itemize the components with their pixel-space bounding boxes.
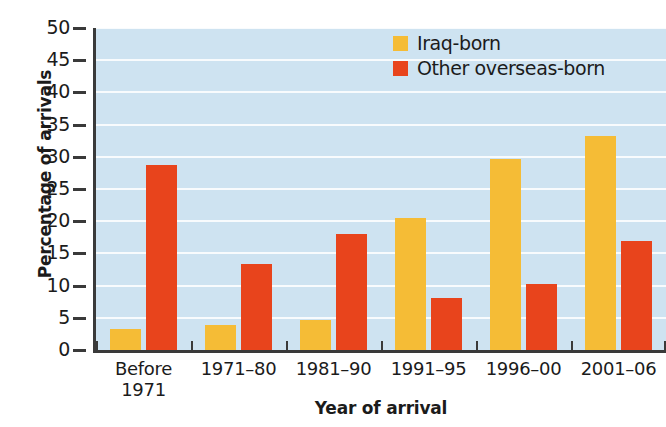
legend-item: Other overseas-born <box>393 58 605 79</box>
x-tick-label-line: 1971 <box>96 379 191 400</box>
y-tick-label: 10 <box>24 276 70 295</box>
y-tick-mark <box>73 91 86 94</box>
bar <box>621 241 652 350</box>
bar <box>526 284 557 350</box>
bar <box>205 325 236 350</box>
x-tick-label-line: 2001–06 <box>571 358 666 379</box>
y-tick-mark <box>73 220 86 223</box>
legend-item: Iraq-born <box>393 33 605 54</box>
y-tick-label: 35 <box>24 115 70 134</box>
bar <box>110 329 141 350</box>
x-tick-label: 1981–90 <box>286 358 381 379</box>
x-tick-mark <box>476 341 478 350</box>
x-tick-mark <box>381 341 383 350</box>
x-tick-label-line: 1981–90 <box>286 358 381 379</box>
x-tick-mark <box>571 341 573 350</box>
x-tick-label-line: 1991–95 <box>381 358 476 379</box>
bar-group <box>286 28 381 350</box>
bar <box>241 264 272 350</box>
x-tick-label: 1991–95 <box>381 358 476 379</box>
bar-group <box>191 28 286 350</box>
y-tick-label: 30 <box>24 147 70 166</box>
y-tick-label: 50 <box>24 18 70 37</box>
x-tick-mark <box>286 341 288 350</box>
x-tick-label: Before1971 <box>96 358 191 400</box>
x-tick-mark <box>96 341 98 350</box>
y-tick-mark <box>73 188 86 191</box>
bar <box>300 320 331 350</box>
x-tick-label-line: 1971–80 <box>191 358 286 379</box>
x-axis-title: Year of arrival <box>96 398 666 418</box>
y-tick-label: 45 <box>24 50 70 69</box>
legend-label: Iraq-born <box>417 33 501 54</box>
y-tick-mark <box>73 156 86 159</box>
y-tick-mark <box>73 27 86 30</box>
y-tick-mark <box>73 252 86 255</box>
y-tick-label: 25 <box>24 179 70 198</box>
bar-group <box>96 28 191 350</box>
bar <box>585 136 616 350</box>
y-axis: 05101520253035404550 <box>0 0 96 380</box>
y-tick-mark <box>73 349 86 352</box>
bar <box>336 234 367 350</box>
bar-chart: Percentage of arrivals 05101520253035404… <box>0 0 666 427</box>
bar <box>146 165 177 350</box>
x-tick-label: 1996–00 <box>476 358 571 379</box>
x-tick-label: 1971–80 <box>191 358 286 379</box>
y-tick-label: 0 <box>24 340 70 359</box>
chart-legend: Iraq-bornOther overseas-born <box>393 33 605 83</box>
bar <box>395 218 426 350</box>
x-tick-label-line: Before <box>96 358 191 379</box>
legend-label: Other overseas-born <box>417 58 605 79</box>
legend-swatch-icon <box>393 61 408 76</box>
y-tick-mark <box>73 124 86 127</box>
y-tick-label: 15 <box>24 243 70 262</box>
x-tick-label: 2001–06 <box>571 358 666 379</box>
y-tick-label: 40 <box>24 82 70 101</box>
x-tick-mark <box>191 341 193 350</box>
y-tick-mark <box>73 285 86 288</box>
y-tick-mark <box>73 59 86 62</box>
x-tick-label-line: 1996–00 <box>476 358 571 379</box>
bar <box>490 159 521 350</box>
y-tick-label: 20 <box>24 211 70 230</box>
y-tick-mark <box>73 317 86 320</box>
legend-swatch-icon <box>393 36 408 51</box>
y-tick-label: 5 <box>24 308 70 327</box>
bar <box>431 298 462 350</box>
